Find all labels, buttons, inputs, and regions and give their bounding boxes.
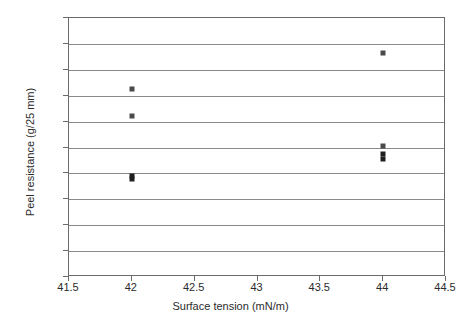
x-tick-label: 44.5 xyxy=(420,281,461,293)
x-tick-label: 43 xyxy=(232,281,282,293)
gridline xyxy=(69,44,444,45)
y-tick-mark xyxy=(63,43,68,44)
y-axis-title: Peel resistance (g/25 mm) xyxy=(24,42,36,262)
x-tick-mark xyxy=(382,276,383,281)
gridline xyxy=(69,148,444,149)
y-tick-mark xyxy=(63,250,68,251)
data-point xyxy=(129,113,134,118)
y-tick-mark xyxy=(63,95,68,96)
y-tick-mark xyxy=(63,121,68,122)
gridline xyxy=(69,199,444,200)
x-tick-mark xyxy=(131,276,132,281)
x-tick-label: 42 xyxy=(106,281,156,293)
y-tick-mark xyxy=(63,69,68,70)
data-point xyxy=(381,50,386,55)
y-tick-mark xyxy=(63,147,68,148)
data-point xyxy=(129,176,134,181)
gridline xyxy=(69,173,444,174)
x-tick-mark xyxy=(257,276,258,281)
gridline xyxy=(69,251,444,252)
gridline xyxy=(69,96,444,97)
x-tick-mark xyxy=(68,276,69,281)
gridline xyxy=(69,70,444,71)
x-tick-label: 43.5 xyxy=(294,281,344,293)
x-tick-mark xyxy=(194,276,195,281)
data-point xyxy=(381,156,386,161)
gridline xyxy=(69,225,444,226)
x-tick-label: 41.5 xyxy=(43,281,93,293)
x-tick-label: 42.5 xyxy=(169,281,219,293)
plot-area xyxy=(68,17,445,276)
x-axis-title: Surface tension (mN/m) xyxy=(0,300,461,312)
y-tick-mark xyxy=(63,198,68,199)
x-tick-mark xyxy=(319,276,320,281)
x-tick-mark xyxy=(445,276,446,281)
scatter-chart: 050100150200250300350400450500 41.54242.… xyxy=(0,0,461,325)
y-tick-mark xyxy=(63,17,68,18)
data-point xyxy=(381,143,386,148)
x-tick-label: 44 xyxy=(357,281,407,293)
data-point xyxy=(129,87,134,92)
gridline xyxy=(69,122,444,123)
y-tick-mark xyxy=(63,172,68,173)
y-tick-mark xyxy=(63,224,68,225)
